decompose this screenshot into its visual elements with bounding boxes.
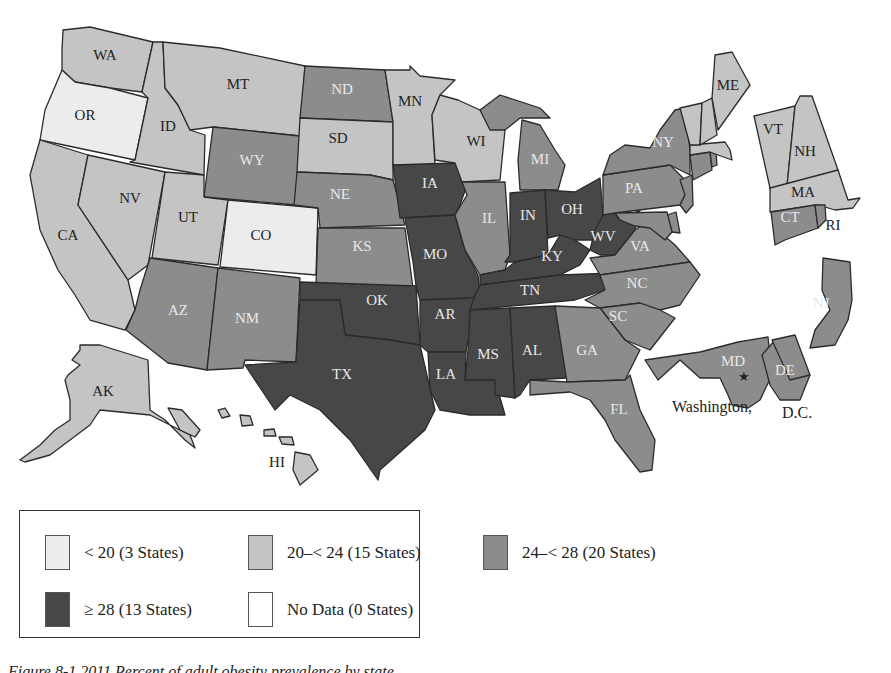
state-label-nm: NM: [235, 310, 259, 326]
state-label-fl: FL: [610, 401, 628, 417]
legend-label: 20–< 24 (15 States): [287, 543, 421, 563]
state-ny[interactable]: [603, 108, 690, 175]
state-label-de: DE: [775, 362, 795, 378]
legend-label: < 20 (3 States): [84, 543, 184, 563]
dc-marker: ★: [738, 369, 750, 384]
legend-swatch: [45, 592, 70, 627]
us-choropleth-map: WA OR CA ID NV MT WY UT CO AZ NM ND SD N…: [0, 0, 891, 500]
state-label-nj: NJ: [813, 295, 830, 311]
state-label-az: AZ: [168, 302, 188, 318]
state-label-id: ID: [160, 118, 176, 134]
state-label-or: OR: [75, 107, 96, 123]
state-label-ne: NE: [330, 186, 350, 202]
legend-item-gte28: ≥ 28 (13 States): [45, 592, 192, 627]
state-label-ky: KY: [541, 248, 563, 264]
state-label-nh: NH: [794, 143, 816, 159]
state-label-ny: NY: [652, 134, 674, 150]
state-label-ca: CA: [58, 227, 79, 243]
state-label-mi: MI: [531, 151, 549, 167]
state-label-in: IN: [520, 207, 536, 223]
dc-label-left: Washington,: [672, 398, 752, 416]
legend-item-lt20: < 20 (3 States): [45, 535, 184, 570]
state-label-co: CO: [251, 227, 272, 243]
state-label-sc: SC: [609, 308, 627, 324]
state-label-ak: AK: [92, 383, 114, 399]
state-label-ct: CT: [780, 209, 799, 225]
state-label-md: MD: [721, 353, 745, 369]
state-hi-4[interactable]: [279, 437, 294, 445]
state-hi-2[interactable]: [240, 415, 253, 426]
legend-label: 24–< 28 (20 States): [522, 543, 656, 563]
legend-swatch: [248, 535, 273, 570]
state-label-pa: PA: [625, 180, 643, 196]
state-label-ut: UT: [178, 209, 198, 225]
legend-swatch: [45, 535, 70, 570]
state-label-wv: WV: [591, 228, 616, 244]
state-label-wy: WY: [240, 152, 265, 168]
state-label-nc: NC: [627, 275, 648, 291]
state-label-nv: NV: [119, 190, 141, 206]
state-label-mt: MT: [227, 76, 250, 92]
legend-item-20to24: 20–< 24 (15 States): [248, 535, 421, 570]
state-label-ar: AR: [435, 306, 456, 322]
state-label-mn: MN: [398, 93, 422, 109]
state-hi-1[interactable]: [218, 408, 230, 418]
legend-item-24to28: 24–< 28 (20 States): [483, 535, 656, 570]
state-label-la: LA: [436, 366, 456, 382]
state-label-wa: WA: [93, 47, 116, 63]
state-label-me: ME: [717, 77, 740, 93]
state-label-nd: ND: [331, 81, 353, 97]
state-label-il: IL: [482, 210, 496, 226]
state-label-ga: GA: [576, 342, 598, 358]
state-fl[interactable]: [530, 375, 655, 472]
figure-caption: Figure 8-1 2011 Percent of adult obesity…: [8, 661, 394, 673]
state-label-ks: KS: [352, 238, 371, 254]
state-label-vt: VT: [763, 121, 783, 137]
state-label-hi: HI: [269, 454, 285, 470]
state-label-sd: SD: [328, 130, 347, 146]
state-label-ia: IA: [422, 175, 438, 191]
state-label-ri: RI: [826, 217, 841, 233]
state-label-oh: OH: [561, 201, 583, 217]
legend-swatch: [483, 535, 508, 570]
state-label-ms: MS: [477, 346, 499, 362]
legend-item-nodata: No Data (0 States): [248, 592, 413, 627]
legend-swatch: [248, 592, 273, 627]
state-label-mo: MO: [423, 246, 447, 262]
state-label-tn: TN: [520, 282, 540, 298]
state-label-tx: TX: [332, 366, 352, 382]
legend-label: No Data (0 States): [287, 600, 413, 620]
state-ct[interactable]: [690, 152, 712, 180]
dc-label-right: D.C.: [782, 404, 812, 421]
state-label-wi: WI: [466, 133, 485, 149]
state-ks[interactable]: [316, 228, 413, 288]
state-label-ma: MA: [791, 184, 815, 200]
state-label-ok: OK: [366, 292, 388, 308]
state-label-va: VA: [630, 238, 650, 254]
state-label-al: AL: [522, 342, 542, 358]
legend: < 20 (3 States) 20–< 24 (15 States) 24–<…: [19, 510, 420, 638]
state-hi-5[interactable]: [293, 452, 318, 485]
state-hi-3[interactable]: [264, 429, 276, 436]
legend-label: ≥ 28 (13 States): [84, 600, 192, 620]
state-sd[interactable]: [297, 118, 393, 180]
